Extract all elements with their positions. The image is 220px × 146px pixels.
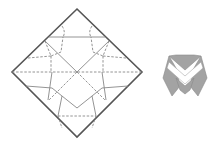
center-lower-mount-r bbox=[77, 96, 92, 108]
diag-valley-bl bbox=[49, 72, 77, 100]
right-lower-mount bbox=[92, 88, 102, 116]
left-lower-mount-v bbox=[48, 72, 52, 100]
top-right-valley bbox=[90, 26, 92, 37]
left-lower-mount bbox=[52, 88, 62, 116]
right-lower-mount-h bbox=[102, 86, 128, 88]
center-lower-mount-l bbox=[62, 96, 77, 108]
left-lower-mount-h bbox=[26, 86, 52, 88]
origami-diagram bbox=[0, 0, 220, 146]
right-lower-mount-v bbox=[102, 72, 106, 100]
paper-square-outline bbox=[12, 9, 142, 137]
top-left-valley bbox=[62, 26, 64, 37]
left-upper-valleys bbox=[45, 37, 63, 56]
left-upper-valley-h bbox=[28, 56, 51, 58]
crease-pattern bbox=[12, 9, 142, 137]
right-upper-valley-h bbox=[103, 56, 126, 58]
folded-model bbox=[163, 55, 207, 96]
diag-valley-br bbox=[77, 72, 105, 100]
right-upper-valleys bbox=[91, 37, 109, 56]
